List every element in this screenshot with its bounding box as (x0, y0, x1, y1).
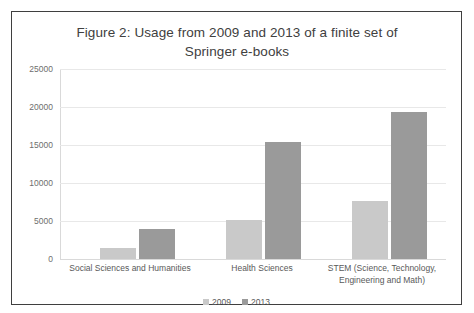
bar-2013-social-sciences-and-humanities[interactable] (139, 229, 175, 259)
legend-label-2013: 2013 (251, 297, 270, 307)
bar-group-stem (332, 69, 438, 259)
category-label-health-sciences: Health Sciences (192, 263, 332, 275)
figure-frame: Figure 2: Usage from 2009 and 2013 of a … (11, 11, 462, 305)
category-label-line-1: Social Sciences and Humanities (50, 263, 210, 275)
y-axis-line (60, 69, 61, 259)
legend-swatch-icon-2009 (203, 299, 209, 305)
chart-title-line-1: Figure 2: Usage from 2009 and 2013 of a … (42, 23, 432, 42)
bar-2013-stem[interactable] (391, 112, 427, 259)
legend-label-2009: 2009 (212, 297, 231, 307)
figure-screenshot: Figure 2: Usage from 2009 and 2013 of a … (0, 0, 474, 313)
category-label-stem: STEM (Science, Technology, Engineering a… (317, 263, 447, 286)
bar-group-social-sciences-and-humanities (80, 69, 186, 259)
gridline-0: 0 (60, 259, 446, 260)
chart-legend: 2009 2013 (12, 297, 461, 307)
legend-swatch-icon-2013 (242, 299, 248, 305)
y-tick-label-5000: 5000 (34, 216, 53, 226)
category-label-line-2: Engineering and Math) (317, 275, 447, 287)
y-tick-label-15000: 15000 (29, 140, 53, 150)
bar-group-health-sciences (206, 69, 312, 259)
y-tick-label-20000: 20000 (29, 102, 53, 112)
category-label-line-1: STEM (Science, Technology, (317, 263, 447, 275)
category-label-line-1: Health Sciences (192, 263, 332, 275)
legend-item-2013[interactable]: 2013 (242, 297, 270, 307)
y-tick-label-25000: 25000 (29, 64, 53, 74)
category-label-social-sciences-and-humanities: Social Sciences and Humanities (50, 263, 210, 275)
y-tick-label-10000: 10000 (29, 178, 53, 188)
chart-title: Figure 2: Usage from 2009 and 2013 of a … (42, 23, 432, 61)
bar-2009-social-sciences-and-humanities[interactable] (100, 248, 136, 259)
bar-2009-health-sciences[interactable] (226, 220, 262, 259)
bar-2013-health-sciences[interactable] (265, 142, 301, 259)
chart-title-line-2: Springer e-books (42, 42, 432, 61)
legend-item-2009[interactable]: 2009 (203, 297, 231, 307)
plot-area: 25000 20000 15000 10000 5000 0 (60, 69, 446, 259)
bar-2009-stem[interactable] (352, 201, 388, 260)
